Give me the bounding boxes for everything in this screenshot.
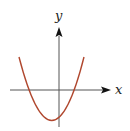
- parabola-curve: [19, 57, 84, 121]
- x-axis-label: x: [115, 82, 123, 97]
- parabola-graph: x y: [0, 0, 130, 131]
- y-axis-arrow-icon: [56, 27, 63, 37]
- graph-canvas: x y: [0, 0, 130, 131]
- y-axis-label: y: [54, 8, 63, 23]
